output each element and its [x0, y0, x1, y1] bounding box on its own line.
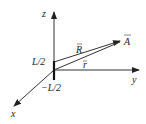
- z-axis-label: z: [41, 8, 46, 19]
- vector-R-label: R: [75, 44, 82, 55]
- vector-R: [54, 41, 120, 62]
- y-axis-label: y: [131, 74, 137, 85]
- vector-r-label: r: [83, 59, 87, 70]
- x-axis-label: x: [10, 108, 16, 119]
- point-A-label: A: [123, 36, 131, 47]
- vector-diagram: z y x L/2 −L/2 R r A: [0, 0, 146, 124]
- vector-r: [54, 42, 120, 70]
- wire-top-label: L/2: [31, 56, 45, 67]
- wire-bottom-label: −L/2: [41, 82, 61, 93]
